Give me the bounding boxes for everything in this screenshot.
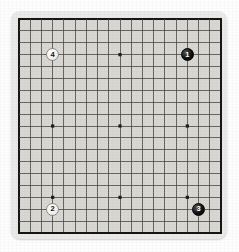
board-surface[interactable] <box>18 18 222 234</box>
go-board-figure: 1234 <box>0 0 239 252</box>
